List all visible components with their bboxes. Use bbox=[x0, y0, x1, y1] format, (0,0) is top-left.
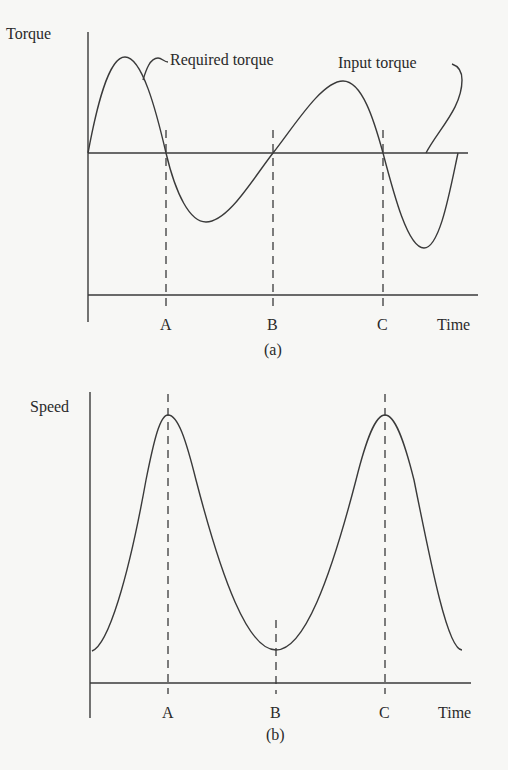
input-torque-leader bbox=[426, 64, 462, 153]
speed-plot: Speed A B C Time (b) bbox=[30, 392, 471, 744]
marker-a-label: A bbox=[160, 316, 172, 333]
marker-b-label: B bbox=[267, 316, 278, 333]
speed-curve bbox=[92, 415, 462, 651]
time-axis-label-b: Time bbox=[438, 704, 471, 721]
marker-b-label-speed: B bbox=[270, 704, 281, 721]
caption-b: (b) bbox=[266, 726, 285, 744]
torque-axis-label: Torque bbox=[6, 25, 51, 43]
input-torque-label: Input torque bbox=[338, 54, 417, 72]
marker-c-label-speed: C bbox=[379, 704, 390, 721]
marker-a-label-speed: A bbox=[162, 704, 174, 721]
required-torque-leader bbox=[143, 58, 168, 80]
time-axis-label-a: Time bbox=[437, 316, 470, 333]
required-torque-label: Required torque bbox=[170, 51, 274, 69]
speed-axis-label: Speed bbox=[30, 398, 69, 416]
figure-canvas: Torque Required torque Input torque A B … bbox=[0, 0, 508, 770]
torque-plot: Torque Required torque Input torque A B … bbox=[6, 25, 478, 359]
marker-c-label: C bbox=[377, 316, 388, 333]
caption-a: (a) bbox=[264, 341, 282, 359]
